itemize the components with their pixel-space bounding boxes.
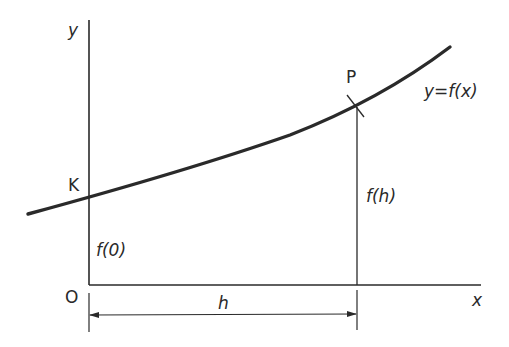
point-p-tick — [347, 95, 364, 117]
f0-label: f(0) — [96, 240, 126, 260]
point-p-label: P — [346, 67, 356, 87]
y-axis-label: y — [67, 20, 79, 40]
origin-label: O — [65, 287, 78, 307]
function-diagram: y K P y=f(x) f(h) f(0) O h x — [0, 0, 509, 347]
fh-label: f(h) — [366, 186, 396, 206]
h-dimension-arrow — [90, 314, 356, 315]
point-k-label: K — [68, 175, 80, 195]
x-axis-label: x — [471, 290, 483, 310]
curve-label: y=f(x) — [423, 81, 478, 101]
h-label: h — [218, 293, 229, 313]
